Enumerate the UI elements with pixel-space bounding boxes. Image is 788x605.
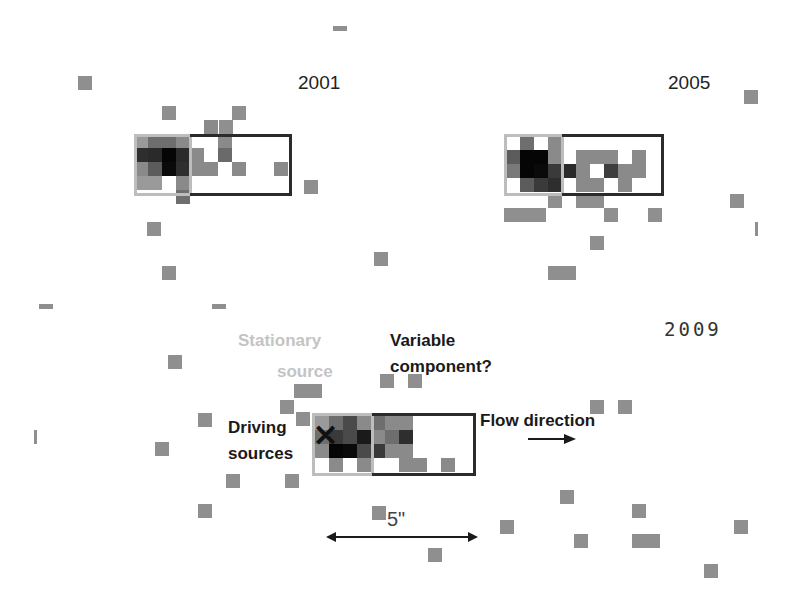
noise-pixel xyxy=(162,106,176,120)
noise-pixel xyxy=(198,504,212,518)
scale-bar-label: 5" xyxy=(387,508,405,531)
noise-pixel xyxy=(168,355,182,369)
noise-pixel xyxy=(333,26,347,31)
noise-pixel xyxy=(618,400,632,414)
driving-source-cross-icon: ✕ xyxy=(313,421,338,451)
variable-component-label-line1: Variable xyxy=(390,330,455,352)
noise-pixel xyxy=(730,194,744,208)
year-label-2009: 2009 xyxy=(664,318,722,340)
variable-component-label-line2: component? xyxy=(390,356,492,378)
noise-pixel xyxy=(232,106,246,120)
noise-pixel xyxy=(304,180,318,194)
flow-direction-label: Flow direction xyxy=(480,410,595,432)
noise-pixel xyxy=(34,430,37,444)
noise-pixel xyxy=(704,564,718,578)
noise-pixel xyxy=(78,76,92,90)
noise-pixel xyxy=(518,208,546,222)
noise-pixel xyxy=(285,474,299,488)
noise-pixel xyxy=(734,520,748,534)
variable-component-box xyxy=(372,413,476,476)
noise-pixel xyxy=(500,520,514,534)
noise-pixel xyxy=(226,474,240,488)
noise-pixel xyxy=(632,504,646,518)
noise-pixel xyxy=(560,490,574,504)
noise-pixel xyxy=(294,384,322,398)
stationary-source-box xyxy=(134,134,192,196)
driving-sources-label-line1: Driving xyxy=(228,417,287,439)
noise-pixel xyxy=(428,548,442,562)
noise-pixel xyxy=(198,413,212,427)
noise-pixel xyxy=(590,236,604,250)
noise-pixel xyxy=(372,506,386,520)
noise-pixel xyxy=(755,222,758,236)
noise-pixel xyxy=(548,194,562,208)
flux-pixel xyxy=(204,120,218,134)
stationary-source-label-line2: source xyxy=(277,361,333,383)
noise-pixel xyxy=(548,266,576,280)
year-label-2005: 2005 xyxy=(668,72,710,94)
noise-pixel xyxy=(604,208,618,222)
stationary-source-label-line1: Stationary xyxy=(238,330,321,352)
noise-pixel xyxy=(296,412,310,426)
noise-pixel xyxy=(574,534,588,548)
noise-pixel xyxy=(147,222,161,236)
noise-pixel xyxy=(504,208,518,222)
noise-pixel xyxy=(39,304,53,309)
noise-pixel xyxy=(212,304,226,309)
noise-pixel xyxy=(280,400,294,414)
noise-pixel xyxy=(374,252,388,266)
variable-component-box xyxy=(562,134,664,196)
noise-pixel xyxy=(648,208,662,222)
noise-pixel xyxy=(162,266,176,280)
noise-pixel xyxy=(219,120,233,134)
noise-pixel xyxy=(744,90,758,104)
variable-component-box xyxy=(190,134,292,196)
noise-pixel xyxy=(155,442,169,456)
stationary-source-box xyxy=(504,134,564,196)
year-label-2001: 2001 xyxy=(298,72,340,94)
noise-pixel xyxy=(576,194,604,208)
noise-pixel xyxy=(632,534,660,548)
driving-sources-label-line2: sources xyxy=(228,443,293,465)
